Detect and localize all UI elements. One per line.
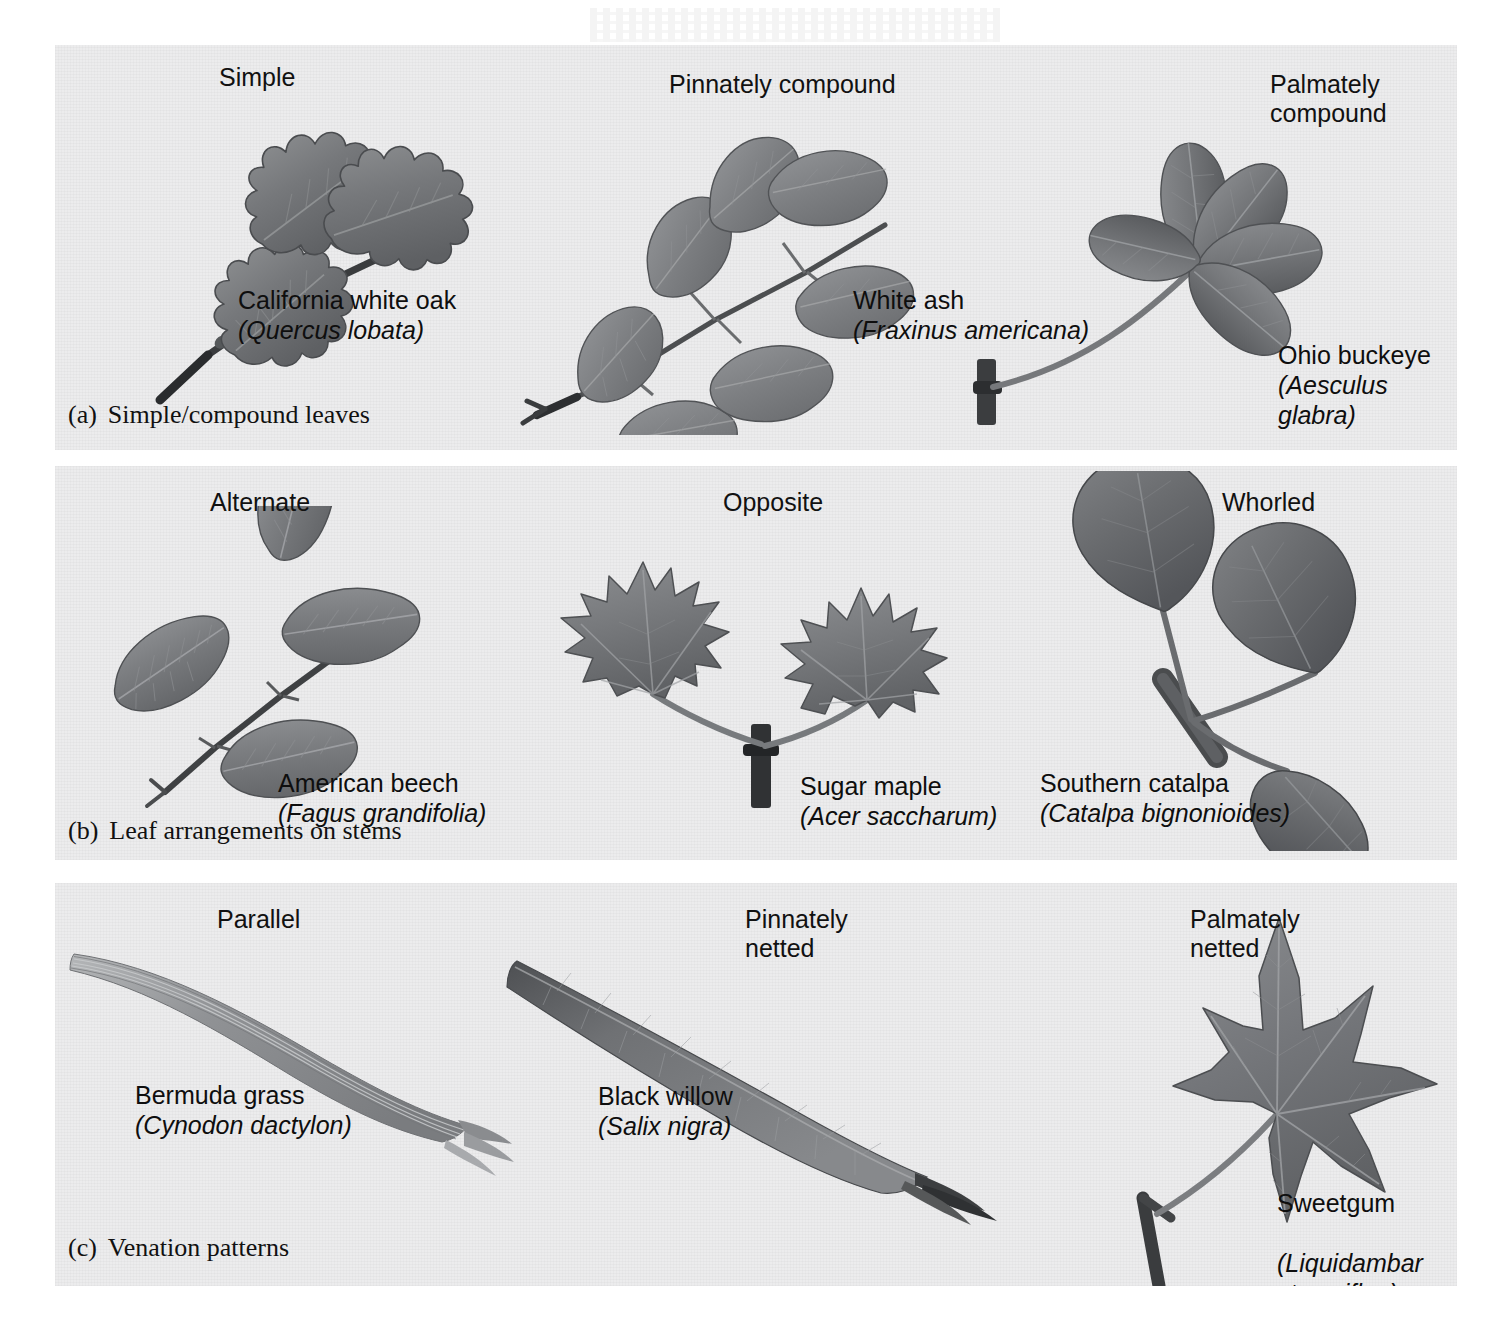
species-label-white-ash: White ash (Fraxinus americana) — [853, 285, 1089, 345]
common-name: Southern catalpa — [1040, 768, 1290, 798]
scan-bleedthrough-artifact — [590, 8, 1000, 42]
panel-caption-c: (c)Venation patterns — [68, 1233, 289, 1263]
common-name: Ohio buckeye — [1278, 340, 1457, 370]
scientific-name: (Salix nigra) — [598, 1111, 733, 1141]
beech-leaf-right-upper — [276, 565, 425, 688]
category-label-pinnately-netted: Pinnately netted — [745, 905, 848, 964]
grass-blade — [70, 954, 514, 1176]
category-label-alternate: Alternate — [210, 488, 310, 517]
catalpa-leaf-upper-left — [1065, 471, 1226, 622]
category-label-palmately-compound: Palmately compound — [1270, 70, 1387, 129]
leaf-morphology-figure: Simple California white oak (Quercus lob… — [0, 0, 1499, 1321]
category-label-pinnately-compound: Pinnately compound — [669, 70, 896, 99]
scientific-name: (Liquidambar styraciflua) — [1277, 1248, 1423, 1286]
common-name: American beech — [278, 768, 486, 798]
maple-petiole-left — [653, 694, 761, 744]
scientific-name: (Quercus lobata) — [238, 315, 456, 345]
species-label-california-white-oak: California white oak (Quercus lobata) — [238, 285, 456, 345]
scientific-name: (Cynodon dactylon) — [135, 1110, 352, 1140]
species-label-sweetgum: Sweetgum (Liquidambar styraciflua) — [1277, 1158, 1423, 1286]
ash-leaflet-left-lower — [560, 299, 677, 409]
category-label-opposite: Opposite — [723, 488, 823, 517]
panel-tag: (b) — [68, 816, 98, 845]
scientific-name: (Aesculus glabra) — [1278, 370, 1457, 430]
category-label-palmately-netted: Palmately netted — [1190, 905, 1300, 964]
species-label-bermuda-grass: Bermuda grass (Cynodon dactylon) — [135, 1080, 352, 1140]
panel-leaf-arrangements: Alternate American beech (Fagus grandifo… — [55, 466, 1457, 860]
scientific-name: (Catalpa bignonioides) — [1040, 798, 1290, 828]
maple-leaf-right — [781, 588, 947, 718]
common-name: California white oak — [238, 285, 456, 315]
common-name: Black willow — [598, 1081, 733, 1111]
species-label-southern-catalpa: Southern catalpa (Catalpa bignonioides) — [1040, 768, 1290, 828]
common-name: Sweetgum — [1277, 1188, 1423, 1218]
common-name: Bermuda grass — [135, 1080, 352, 1110]
common-name: White ash — [853, 285, 1089, 315]
panel-caption-b: (b)Leaf arrangements on stems — [68, 816, 402, 846]
maple-stem-node — [743, 724, 779, 808]
willow-blade — [507, 961, 997, 1225]
maple-leaf-left — [561, 562, 729, 698]
beech-leaf-left — [108, 613, 236, 714]
species-label-sugar-maple: Sugar maple (Acer saccharum) — [800, 771, 997, 831]
sweetgum-petiole — [1157, 1114, 1277, 1214]
panel-simple-compound-leaves: Simple California white oak (Quercus lob… — [55, 45, 1457, 450]
panel-venation-patterns: Parallel Bermuda grass (Cynodon dactylon… — [55, 883, 1457, 1286]
panel-tag: (a) — [68, 400, 97, 429]
panel-tag: (c) — [68, 1233, 97, 1262]
buckeye-stem-node — [973, 359, 1002, 425]
species-label-black-willow: Black willow (Salix nigra) — [598, 1081, 733, 1141]
scientific-name: (Acer saccharum) — [800, 801, 997, 831]
specimen-black-willow — [485, 943, 1045, 1233]
panel-caption-text: Venation patterns — [108, 1233, 289, 1262]
specimen-california-white-oak — [130, 100, 510, 420]
panel-caption-a: (a)Simple/compound leaves — [68, 400, 370, 430]
category-label-simple: Simple — [219, 63, 295, 92]
catalpa-petiole-2 — [1193, 673, 1315, 721]
species-label-ohio-buckeye: Ohio buckeye (Aesculus glabra) — [1278, 340, 1457, 430]
scientific-name: (Fraxinus americana) — [853, 315, 1089, 345]
panel-caption-text: Leaf arrangements on stems — [109, 816, 401, 845]
common-name: Sugar maple — [800, 771, 997, 801]
category-label-whorled: Whorled — [1222, 488, 1315, 517]
catalpa-leaf-upper-right — [1191, 497, 1386, 700]
category-label-parallel: Parallel — [217, 905, 300, 934]
panel-caption-text: Simple/compound leaves — [108, 400, 370, 429]
